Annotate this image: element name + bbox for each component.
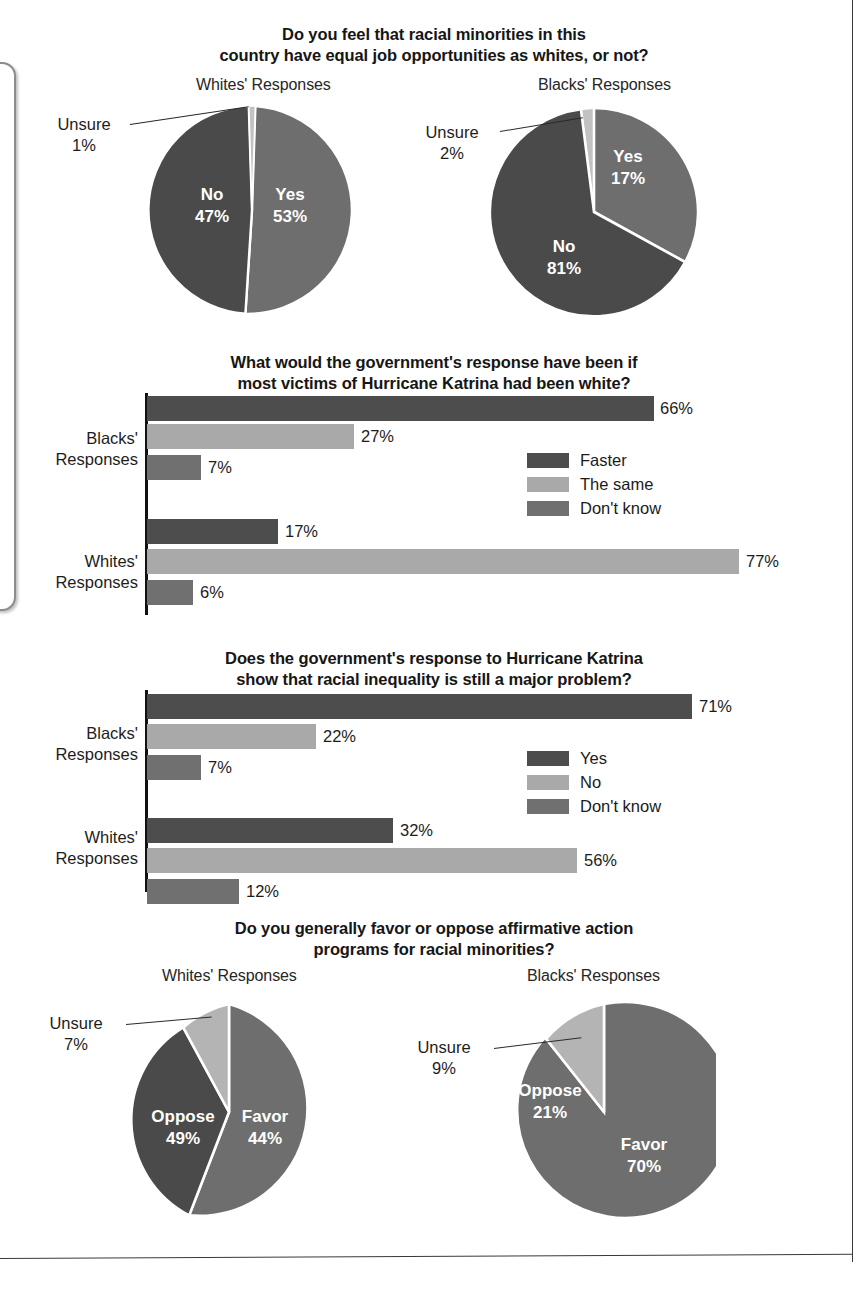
bar2-group-label-whites-line1: Whites' [30, 827, 138, 848]
bar-whites-faster [147, 519, 278, 544]
section-katrina-inequality-title: Does the government's response to Hurric… [0, 648, 868, 690]
bar2-blacks-dont-know [147, 755, 201, 780]
pie-jobs-blacks-svg: Yes 17% No 81% [486, 104, 702, 320]
bar-group-label-blacks-line1: Blacks' [30, 428, 138, 449]
legend2-label-no: No [580, 771, 601, 794]
legend-swatch-the-same [527, 477, 569, 492]
bar2-group-label-blacks: Blacks' Responses [30, 723, 138, 765]
pie-jobs-whites-svg: Yes 53% No 47% [144, 102, 360, 318]
callout-unsure-aa-blacks-value: 9% [396, 1058, 492, 1079]
bar-blacks-dont-know [147, 455, 201, 480]
bar-value-blacks-the-same: 27% [361, 424, 394, 449]
legend2-swatch-dont-know [527, 799, 569, 814]
callout-unsure-aa-whites-value: 7% [28, 1034, 124, 1055]
pie-chart-aa-blacks: Favor 70% Oppose 21% [492, 1000, 716, 1224]
pie-aa-blacks-oppose-label: Oppose [518, 1081, 581, 1100]
bar-value-whites-the-same: 77% [746, 549, 779, 574]
callout-unsure-aa-whites: Unsure 7% [28, 1013, 124, 1055]
page-border-bottom [0, 1254, 853, 1259]
pie-jobs-whites-yes-label: Yes [275, 185, 304, 204]
callout-unsure-jobs-whites: Unsure 1% [36, 114, 132, 156]
bar2-group-label-whites-line2: Responses [30, 848, 138, 869]
pie-jobs-blacks-no-value: 81% [547, 259, 581, 278]
bar2-blacks-no [147, 724, 316, 749]
bar-group-label-whites-line1: Whites' [30, 551, 138, 572]
section2-title: What would the government's response hav… [0, 352, 868, 394]
pie-aa-whites-oppose-value: 49% [166, 1129, 200, 1148]
bar2-whites-no [147, 848, 577, 873]
pie-aa-blacks-favor-value: 70% [627, 1157, 661, 1176]
section4-title-line2: programs for racial minorities? [0, 939, 868, 960]
callout-unsure-aa-whites-label: Unsure [28, 1013, 124, 1034]
legend2-swatch-yes [527, 751, 569, 766]
subtitle-whites-responses-jobs: Whites' Responses [196, 76, 331, 94]
pie-jobs-blacks-yes-value: 17% [611, 169, 645, 188]
callout-unsure-aa-blacks-label: Unsure [396, 1037, 492, 1058]
bar2-value-blacks-dont-know: 7% [208, 755, 232, 780]
section4-title: Do you generally favor or oppose affirma… [0, 918, 868, 960]
callout-unsure-aa-blacks: Unsure 9% [396, 1037, 492, 1079]
page-border-right [852, 0, 853, 1262]
subtitle-blacks-responses-aa: Blacks' Responses [527, 967, 660, 985]
section-affirmative-action-title: Do you generally favor or oppose affirma… [0, 918, 868, 960]
bar2-blacks-yes [147, 694, 692, 719]
pie-aa-whites-favor-value: 44% [248, 1129, 282, 1148]
pie-aa-blacks-oppose-value: 21% [533, 1103, 567, 1122]
section-katrina-if-white-title: What would the government's response hav… [0, 352, 868, 394]
section1-title-line2: country have equal job opportunities as … [0, 45, 868, 66]
callout-unsure-jobs-blacks: Unsure 2% [404, 122, 500, 164]
bar2-value-blacks-yes: 71% [699, 694, 732, 719]
bar-group-label-blacks: Blacks' Responses [30, 428, 138, 470]
callout-unsure-jobs-whites-value: 1% [36, 135, 132, 156]
section2-title-line1: What would the government's response hav… [0, 352, 868, 373]
bar2-value-whites-dont-know: 12% [246, 879, 279, 904]
pie-jobs-blacks-no-label: No [553, 237, 576, 256]
section3-title-line2: show that racial inequality is still a m… [0, 669, 868, 690]
pie-jobs-whites-no-label: No [201, 185, 224, 204]
section1-title-line1: Do you feel that racial minorities in th… [0, 24, 868, 45]
bar-value-blacks-dont-know: 7% [208, 455, 232, 480]
bar-group-label-whites: Whites' Responses [30, 551, 138, 593]
bar-whites-the-same [147, 549, 739, 574]
pie-aa-whites-favor-label: Favor [242, 1107, 289, 1126]
legend-label-the-same: The same [580, 473, 653, 496]
pie-aa-whites-svg: Favor 44% Oppose 49% [117, 1000, 341, 1224]
legend-label-faster: Faster [580, 449, 627, 472]
callout-unsure-jobs-blacks-label: Unsure [404, 122, 500, 143]
pie-chart-jobs-whites: Yes 53% No 47% [144, 102, 360, 318]
pie-jobs-whites-yes-value: 53% [273, 207, 307, 226]
bar2-group-label-blacks-line1: Blacks' [30, 723, 138, 744]
subtitle-whites-responses-aa: Whites' Responses [162, 967, 297, 985]
legend-label-dont-know: Don't know [580, 497, 661, 520]
bar2-group-label-whites: Whites' Responses [30, 827, 138, 869]
pie-chart-aa-whites: Favor 44% Oppose 49% [117, 1000, 341, 1224]
bar2-group-label-blacks-line2: Responses [30, 744, 138, 765]
bar-blacks-the-same [147, 424, 354, 449]
bar-group-label-whites-line2: Responses [30, 572, 138, 593]
pie-chart-jobs-blacks: Yes 17% No 81% [486, 104, 702, 320]
legend-swatch-dont-know [527, 501, 569, 516]
pie-aa-blacks-svg: Favor 70% Oppose 21% [492, 1000, 716, 1224]
legend-swatch-faster [527, 453, 569, 468]
bar2-value-blacks-no: 22% [323, 724, 356, 749]
bar-value-whites-dont-know: 6% [200, 580, 224, 605]
bar2-value-whites-no: 56% [584, 848, 617, 873]
legend2-label-yes: Yes [580, 747, 607, 770]
bar2-value-whites-yes: 32% [400, 818, 433, 843]
legend2-swatch-no [527, 775, 569, 790]
bar-blacks-faster [147, 396, 654, 421]
section2-title-line2: most victims of Hurricane Katrina had be… [0, 373, 868, 394]
callout-unsure-jobs-blacks-value: 2% [404, 143, 500, 164]
bar2-whites-yes [147, 818, 393, 843]
section-equal-job-opportunities: Do you feel that racial minorities in th… [0, 24, 868, 66]
subtitle-blacks-responses-jobs: Blacks' Responses [538, 76, 671, 94]
pie-jobs-blacks-yes-label: Yes [613, 147, 642, 166]
bar-value-whites-faster: 17% [285, 519, 318, 544]
facing-page-box-fragment [0, 62, 16, 611]
bar-whites-dont-know [147, 580, 193, 605]
section1-title: Do you feel that racial minorities in th… [0, 24, 868, 66]
pie-aa-blacks-favor-label: Favor [621, 1135, 668, 1154]
pie-aa-whites-oppose-label: Oppose [151, 1107, 214, 1126]
section4-title-line1: Do you generally favor or oppose affirma… [0, 918, 868, 939]
section3-title-line1: Does the government's response to Hurric… [0, 648, 868, 669]
